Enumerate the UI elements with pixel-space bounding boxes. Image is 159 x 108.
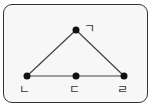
point-left (24, 73, 31, 80)
label-right: ㄹ (117, 84, 128, 96)
edge-top-left (27, 30, 76, 76)
label-top: ㄱ (84, 23, 95, 35)
point-middle (73, 73, 80, 80)
label-left: ㄴ (19, 84, 30, 96)
point-right (121, 73, 128, 80)
label-middle: ㄷ (69, 84, 80, 96)
edge-top-right (76, 30, 124, 76)
point-top (73, 27, 80, 34)
